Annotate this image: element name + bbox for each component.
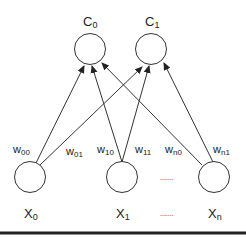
edge-xn-c0 bbox=[102, 63, 202, 165]
network-diagram: C0 C1 w00 w01 w10 w11 wn0 wn1 ....... ..… bbox=[0, 0, 246, 238]
ellipsis-labels: ....... bbox=[160, 210, 174, 217]
node-x1 bbox=[107, 162, 138, 193]
edge-x0-c0 bbox=[36, 66, 84, 163]
weight-wn1: wn1 bbox=[212, 143, 230, 157]
edges bbox=[36, 63, 213, 165]
weight-w11: w11 bbox=[134, 143, 152, 157]
label-xn: Xn bbox=[208, 206, 222, 222]
weight-w10: w10 bbox=[96, 143, 114, 157]
ellipsis-nodes: ....... bbox=[160, 174, 174, 181]
bottom-rule bbox=[0, 232, 246, 235]
label-c0: C0 bbox=[83, 14, 97, 30]
node-c0 bbox=[75, 34, 106, 65]
node-x0 bbox=[15, 162, 46, 193]
node-c1 bbox=[136, 34, 167, 65]
weight-wn0: wn0 bbox=[164, 143, 182, 157]
label-x0: X0 bbox=[24, 206, 38, 222]
weight-w00: w00 bbox=[12, 143, 30, 157]
label-x1: X1 bbox=[116, 206, 130, 222]
node-xn bbox=[199, 162, 230, 193]
label-c1: C1 bbox=[145, 14, 159, 30]
edge-x0-c1 bbox=[40, 67, 142, 165]
weight-w01: w01 bbox=[65, 145, 83, 159]
